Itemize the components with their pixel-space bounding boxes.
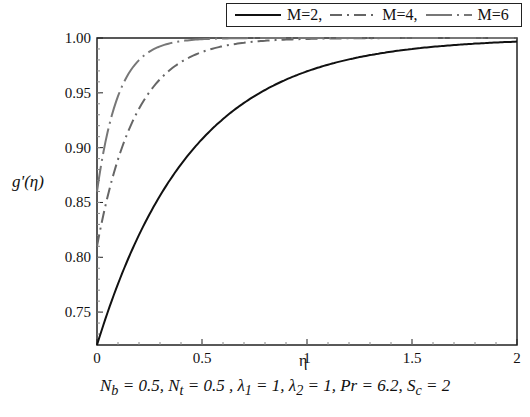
series-line-m4 [97, 38, 517, 246]
x-tick-label: 0 [93, 350, 101, 366]
series-line-m2 [97, 42, 517, 345]
x-axis-label: η [299, 352, 307, 370]
y-tick-label: 0.80 [65, 249, 91, 265]
y-tick-label: 0.75 [65, 304, 91, 320]
y-axis-label: g'(η) [12, 172, 44, 192]
y-tick-label: 0.95 [65, 85, 91, 101]
x-tick-label: 0.5 [193, 350, 212, 366]
y-tick-label: 0.90 [65, 140, 91, 156]
y-tick-label: 1.00 [65, 30, 91, 46]
parameter-annotation: Nb = 0.5, Nt = 0.5 , λ1 = 1, λ2 = 1, Pr … [100, 376, 450, 399]
x-tick-label: 2 [513, 350, 521, 366]
x-tick-label: 1.5 [403, 350, 422, 366]
plot-area: 0.750.800.850.900.951.0000.511.52 [0, 0, 530, 417]
series-line-m6 [97, 38, 517, 192]
y-tick-label: 0.85 [65, 194, 91, 210]
plot-frame [97, 38, 517, 345]
